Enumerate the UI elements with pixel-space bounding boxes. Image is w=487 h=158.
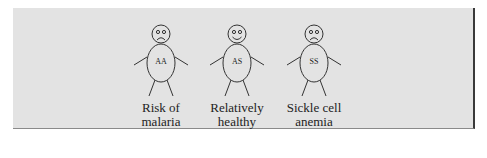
label-line: healthy: [197, 115, 277, 129]
label-aa: Risk of malaria: [121, 101, 201, 129]
genotype-ss: SS: [310, 57, 319, 66]
label-line: Relatively: [197, 101, 277, 115]
label-line: Sickle cell: [274, 101, 354, 115]
label-ss: Sickle cell anemia: [274, 101, 354, 129]
label-line: anemia: [274, 115, 354, 129]
head-icon: [228, 25, 246, 43]
label-line: Risk of: [121, 101, 201, 115]
head-icon: [152, 25, 170, 43]
sad-mouth-icon: [157, 38, 165, 40]
genotype-aa: AA: [155, 57, 167, 66]
sad-mouth-icon: [310, 38, 318, 40]
head-icon: [305, 25, 323, 43]
happy-mouth-icon: [233, 37, 242, 40]
label-line: malaria: [121, 115, 201, 129]
figures-drawing: AA AS SS: [0, 0, 487, 158]
genotype-as: AS: [232, 57, 242, 66]
label-as: Relatively healthy: [197, 101, 277, 129]
